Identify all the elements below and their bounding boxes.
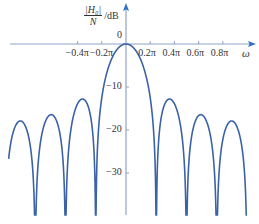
y-axis-label-numerator: |H₀| bbox=[84, 4, 102, 16]
x-tick-label: 0.4π bbox=[162, 47, 180, 58]
x-tick-label: 0.2π bbox=[138, 47, 156, 58]
y-tick-label: 0 bbox=[117, 29, 122, 40]
x-tick-label: 0.8π bbox=[211, 47, 229, 58]
y-axis-arrow-icon bbox=[123, 3, 129, 11]
y-tick-label: −20 bbox=[106, 123, 122, 134]
x-tick-label: −0.4π bbox=[66, 47, 89, 58]
x-axis-label: ω bbox=[242, 47, 250, 59]
chart-plot-area bbox=[0, 0, 259, 224]
y-axis-label-unit: /dB bbox=[104, 10, 118, 21]
y-axis-label-fraction: |H₀| N bbox=[84, 4, 102, 27]
y-axis-label: |H₀| N /dB bbox=[84, 4, 119, 27]
x-tick-label: −0.2π bbox=[90, 47, 113, 58]
y-axis-label-denominator: N bbox=[84, 16, 102, 27]
y-tick-label: −30 bbox=[106, 166, 122, 177]
x-tick-label: 0.6π bbox=[187, 47, 205, 58]
y-tick-label: −10 bbox=[106, 80, 122, 91]
